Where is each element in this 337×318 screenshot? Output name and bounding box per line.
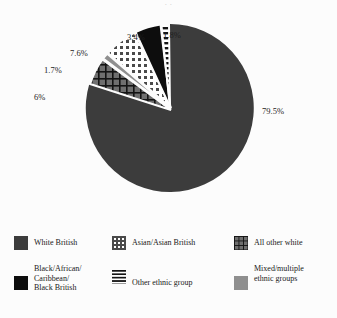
legend-label: Other ethnic group — [132, 264, 192, 288]
legend-swatch-grid-icon — [234, 236, 248, 250]
legend-item-black-african-caribbean: Black/African/ Caribbean/ Black British — [0, 264, 112, 293]
legend-swatch-solid-black-icon — [14, 276, 28, 290]
chart-page: · · — [0, 0, 337, 318]
legend-item-white-british: White British — [0, 236, 112, 250]
chart-legend: White British Asian/Asian British All ot… — [0, 232, 337, 312]
legend-row: Black/African/ Caribbean/ Black British … — [0, 264, 337, 293]
slice-label-other-ethnic-group: 1.8% — [163, 30, 181, 40]
legend-label: Asian/Asian British — [132, 236, 195, 248]
legend-row: White British Asian/Asian British All ot… — [0, 236, 337, 250]
legend-item-mixed-multiple: Mixed/multiple ethnic groups — [234, 264, 337, 293]
pie-graphic — [84, 22, 256, 194]
legend-swatch-solid-dark-icon — [14, 236, 28, 250]
pie-svg — [84, 22, 256, 194]
pie-slices — [86, 24, 254, 192]
legend-label: White British — [34, 236, 77, 248]
legend-item-all-other-white: All other white — [234, 236, 337, 250]
slice-label-white-british: 79.5% — [262, 106, 284, 116]
legend-swatch-solid-gray-icon — [234, 276, 248, 290]
slice-label-all-other-white: 6% — [34, 92, 45, 102]
legend-swatch-dots-icon — [112, 236, 126, 250]
legend-item-other-ethnic-group: Other ethnic group — [112, 264, 234, 293]
slice-label-mixed-multiple: 1.7% — [44, 65, 62, 75]
legend-item-asian-british: Asian/Asian British — [112, 236, 234, 250]
slice-label-asian-british: 7.6% — [70, 48, 88, 58]
pie-chart: 79.5% 6% 1.7% 7.6% 3.4% 1.8% — [0, 8, 337, 230]
slice-label-black-african-caribbean: 3.4% — [127, 32, 145, 42]
legend-swatch-hstripe-icon — [112, 270, 126, 284]
legend-label: Mixed/multiple ethnic groups — [254, 264, 304, 283]
legend-label: Black/African/ Caribbean/ Black British — [34, 264, 82, 293]
legend-label: All other white — [254, 236, 302, 248]
